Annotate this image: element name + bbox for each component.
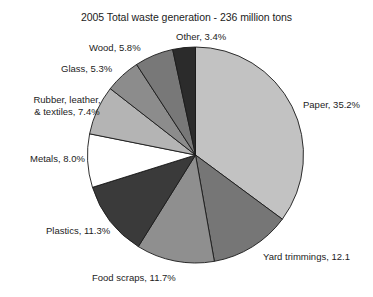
slice-label-wood: Wood, 5.8% (89, 42, 141, 54)
slice-label-food-scraps: Food scraps, 11.7% (92, 272, 176, 284)
slice-label-other: Other, 3.4% (176, 31, 226, 43)
slice-label-yard-trimmings: Yard trimmings, 12.1 (263, 251, 350, 263)
slice-label-glass: Glass, 5.3% (61, 63, 112, 75)
slice-label-metals: Metals, 8.0% (30, 153, 85, 165)
pie-slice-group (88, 47, 304, 263)
slice-label-paper: Paper, 35.2% (303, 99, 360, 111)
pie-chart-figure: 2005 Total waste generation - 236 millio… (0, 0, 373, 297)
slice-label-rubber-line2: & textiles, 7.4% (34, 106, 99, 117)
slice-label-plastics: Plastics, 11.3% (46, 225, 110, 237)
slice-label-rubber-leather-textiles: Rubber, leather, & textiles, 7.4% (12, 94, 122, 117)
slice-label-rubber-line1: Rubber, leather, (33, 94, 100, 105)
